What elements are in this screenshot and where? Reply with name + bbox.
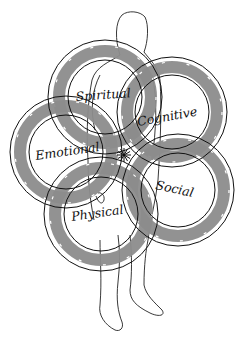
diagram-canvas: SpiritualCognitiveEmotionalSocialPhysica… [0,0,240,337]
wellness-diagram: SpiritualCognitiveEmotionalSocialPhysica… [0,0,240,337]
ring-label-emotional: Emotional [33,139,100,163]
ring-label-social: Social [154,177,195,200]
ring-label-physical: Physical [69,202,124,224]
